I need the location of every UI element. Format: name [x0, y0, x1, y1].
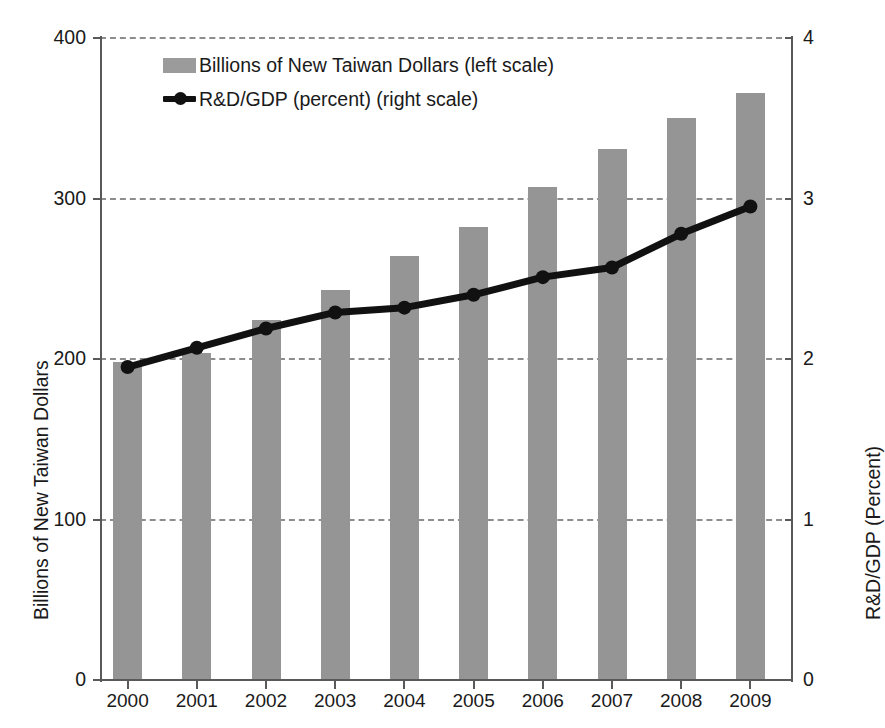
- legend-label-line: R&D/GDP (percent) (right scale): [199, 88, 478, 111]
- bar-2002: [252, 320, 281, 680]
- legend-line-marker-icon: [163, 91, 196, 107]
- x-axis-tick-label: 2002: [226, 690, 306, 712]
- y-axis-right-tick: [785, 37, 793, 39]
- y-axis-right-title: R&D/GDP (Percent): [862, 446, 885, 620]
- x-axis-tick: [334, 681, 336, 689]
- y-axis-left-title: Billions of New Taiwan Dollars: [30, 360, 53, 620]
- y-axis-left-tick: [93, 358, 101, 360]
- y-axis-left-tick: [93, 37, 101, 39]
- x-axis-tick: [127, 681, 129, 689]
- y-axis-left-tick-label: 300: [0, 187, 86, 210]
- bar-2007: [598, 149, 627, 680]
- x-axis-tick-label: 2009: [710, 690, 790, 712]
- x-axis-tick: [196, 681, 198, 689]
- y-axis-right-tick: [785, 198, 793, 200]
- gridline: [100, 37, 792, 39]
- y-axis-left-tick: [93, 679, 101, 681]
- bar-2008: [667, 118, 696, 680]
- x-axis-tick-label: 2000: [88, 690, 168, 712]
- x-axis-line: [99, 679, 793, 681]
- x-axis-tick: [473, 681, 475, 689]
- x-axis-tick: [611, 681, 613, 689]
- x-axis-tick-label: 2004: [364, 690, 444, 712]
- bar-2009: [736, 93, 765, 680]
- legend-item-line: R&D/GDP (percent) (right scale): [163, 82, 554, 116]
- x-axis-tick-label: 2007: [572, 690, 652, 712]
- y-axis-right-tick: [785, 679, 793, 681]
- x-axis-tick: [542, 681, 544, 689]
- y-axis-right-tick-label: 0: [803, 668, 843, 691]
- y-axis-left-tick-label: 400: [0, 26, 86, 49]
- x-axis-tick-label: 2008: [641, 690, 721, 712]
- x-axis-tick-label: 2003: [295, 690, 375, 712]
- y-axis-right-tick-label: 1: [803, 508, 843, 531]
- x-axis-tick-label: 2006: [503, 690, 583, 712]
- y-axis-right-tick: [785, 519, 793, 521]
- bar-2003: [321, 290, 350, 680]
- x-axis-tick-label: 2001: [157, 690, 237, 712]
- bar-2005: [459, 227, 488, 680]
- x-axis-tick: [680, 681, 682, 689]
- y-axis-right-tick-label: 4: [803, 26, 843, 49]
- x-axis-tick: [749, 681, 751, 689]
- x-axis-tick-label: 2005: [434, 690, 514, 712]
- y-axis-right-tick: [785, 358, 793, 360]
- x-axis-tick: [265, 681, 267, 689]
- legend-bar-swatch-icon: [163, 58, 196, 73]
- y-axis-left-tick-label: 0: [0, 668, 86, 691]
- chart-legend: Billions of New Taiwan Dollars (left sca…: [163, 48, 554, 116]
- legend-item-bars: Billions of New Taiwan Dollars (left sca…: [163, 48, 554, 82]
- y-axis-left-tick: [93, 519, 101, 521]
- legend-label-bars: Billions of New Taiwan Dollars (left sca…: [199, 54, 554, 77]
- bar-2004: [390, 256, 419, 680]
- y-axis-right-tick-label: 2: [803, 347, 843, 370]
- bar-2000: [113, 362, 142, 680]
- x-axis-tick: [403, 681, 405, 689]
- bar-2006: [528, 187, 557, 680]
- y-axis-left-tick: [93, 198, 101, 200]
- y-axis-right-tick-label: 3: [803, 187, 843, 210]
- bar-2001: [182, 353, 211, 680]
